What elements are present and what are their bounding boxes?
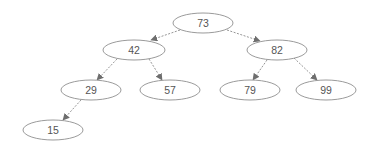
node-15: 15 [23,120,83,140]
node-73: 73 [173,13,233,33]
node-label: 42 [128,44,140,56]
node-82: 82 [247,40,307,60]
edge-29-15 [63,100,81,120]
node-42: 42 [103,40,165,60]
edge-42-57 [149,59,162,80]
node-label: 73 [197,17,209,29]
edge-73-82 [227,30,260,41]
node-29: 29 [61,80,121,100]
edge-42-29 [97,59,117,80]
node-99: 99 [296,80,356,100]
node-label: 29 [85,84,97,96]
node-label: 15 [47,124,59,136]
node-label: 57 [164,84,176,96]
tree-svg: 73 42 82 29 57 79 99 15 [0,0,379,149]
edge-82-79 [253,60,267,80]
node-label: 79 [244,84,256,96]
edge-73-42 [151,30,180,40]
node-79: 79 [220,80,280,100]
tree-diagram: 73 42 82 29 57 79 99 15 [0,0,379,149]
node-label: 82 [271,44,283,56]
edge-82-99 [294,58,317,80]
node-label: 99 [320,84,332,96]
node-57: 57 [140,80,200,100]
